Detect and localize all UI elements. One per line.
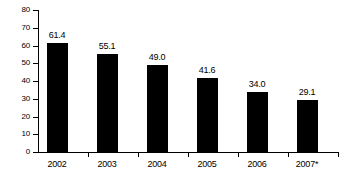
bar-value-2002: 61.4	[37, 31, 77, 40]
y-tick-mark	[33, 81, 38, 82]
y-tick-label-70: 70	[6, 24, 30, 32]
y-tick-mark	[33, 99, 38, 100]
bar-chart: 0 10 20 30 40 50 60 70 80 61.4 55.	[0, 0, 346, 180]
y-tick-mark	[33, 63, 38, 64]
bar-value-2004: 49.0	[137, 53, 177, 62]
y-tick-mark	[33, 117, 38, 118]
y-tick-label-0: 0	[6, 148, 30, 156]
bar-value-2003: 55.1	[87, 42, 127, 51]
y-tick-mark	[33, 10, 38, 11]
bar-2002[interactable]	[47, 43, 68, 152]
bar-value-2006: 34.0	[237, 80, 277, 89]
y-tick-mark	[33, 152, 38, 153]
bar-2007[interactable]	[297, 100, 318, 152]
x-tick-mark	[338, 153, 339, 157]
bar-2006[interactable]	[247, 92, 268, 152]
y-tick-label-20: 20	[6, 113, 30, 121]
x-tick-mark	[188, 153, 189, 157]
x-axis-label-2007: 2007*	[285, 159, 329, 169]
plot-area: 0 10 20 30 40 50 60 70 80 61.4 55.	[0, 0, 346, 180]
x-axis-label-2005: 2005	[185, 159, 229, 169]
bar-2005[interactable]	[197, 78, 218, 152]
y-tick-label-40: 40	[6, 77, 30, 85]
y-tick-label-10: 10	[6, 130, 30, 138]
y-tick-label-60: 60	[6, 42, 30, 50]
x-tick-mark	[138, 153, 139, 157]
y-tick-mark	[33, 28, 38, 29]
y-tick-label-30: 30	[6, 95, 30, 103]
x-axis-label-2002: 2002	[35, 159, 79, 169]
bar-2003[interactable]	[97, 54, 118, 152]
x-axis-label-2003: 2003	[85, 159, 129, 169]
x-tick-mark	[288, 153, 289, 157]
bar-value-2007: 29.1	[287, 88, 327, 97]
x-axis-label-2006: 2006	[235, 159, 279, 169]
y-tick-label-80: 80	[6, 6, 30, 14]
bar-value-2005: 41.6	[187, 66, 227, 75]
x-axis-label-2004: 2004	[135, 159, 179, 169]
y-tick-label-50: 50	[6, 59, 30, 67]
bar-2004[interactable]	[147, 65, 168, 152]
y-tick-mark	[33, 46, 38, 47]
y-tick-mark	[33, 134, 38, 135]
x-tick-mark	[88, 153, 89, 157]
x-tick-mark	[238, 153, 239, 157]
